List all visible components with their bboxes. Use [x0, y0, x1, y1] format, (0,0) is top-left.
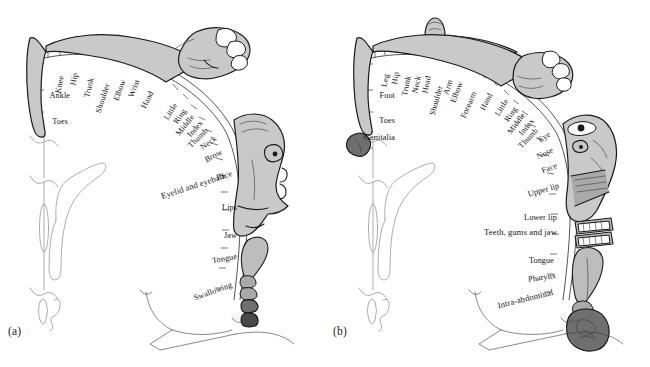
panel-b-drawing	[325, 0, 650, 367]
panel-b-caption: (b)	[333, 325, 347, 337]
region-label: Genitalia	[364, 134, 395, 142]
homunculus-tongue-motor	[241, 237, 268, 280]
region-label: Toes	[52, 118, 68, 126]
region-label: Ankle	[49, 92, 70, 100]
brain-outline-sketch-bottom	[39, 299, 61, 331]
cortical-homunculus-figure: KneeHipTrunkShoulderElbowWristHandAnkleT…	[0, 0, 650, 367]
panel-a-caption: (a)	[8, 325, 21, 337]
homunculus-swallowing-motor	[240, 276, 258, 327]
homunculus-teeth-gums-jaw	[575, 218, 613, 248]
homunculus-pharynx-intraabdominal	[567, 301, 610, 351]
region-label: Toes	[379, 117, 395, 125]
panel-a-drawing	[0, 0, 325, 367]
region-label: Lips	[222, 204, 237, 212]
brain-base-outline	[140, 290, 294, 350]
region-label: Teeth, gums and jaw	[484, 228, 557, 237]
brain-outline-sketch-top	[30, 136, 58, 187]
homunculus-upper-limb	[46, 35, 200, 82]
brain-outline-sketch-bottom-b	[368, 299, 390, 331]
region-label: Tongue	[529, 257, 554, 265]
region-label: Jaw	[224, 232, 237, 240]
homunculus-face-motor	[233, 114, 288, 236]
panel-motor-homunculus: KneeHipTrunkShoulderElbowWristHandAnkleT…	[0, 0, 325, 367]
region-label: Lower lip	[524, 214, 557, 222]
panel-sensory-homunculus: LegHipTrunkNeckHeadShoulderArmElbowForea…	[325, 0, 650, 367]
region-label: Foot	[380, 92, 395, 100]
